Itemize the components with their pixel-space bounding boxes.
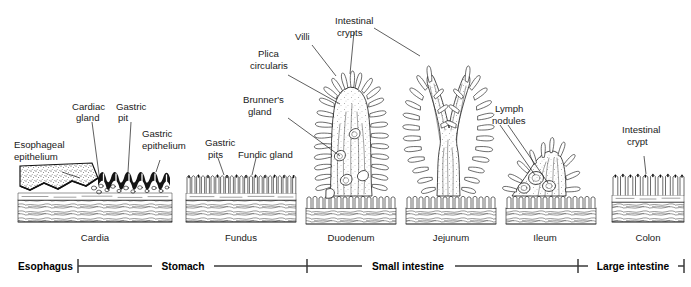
plica-ileum xyxy=(503,138,581,196)
plica-circularis-jejunum xyxy=(403,66,494,196)
callout-lymph-nodules-line2: nodules xyxy=(492,115,526,126)
callout-cardiac-gland-line2: gland xyxy=(76,112,99,123)
region-label-colon: Colon xyxy=(635,232,660,243)
callout-plica-circularis-line2: circularis xyxy=(250,60,288,71)
callout-brunners-gland-line2: gland xyxy=(248,106,271,117)
callout-fundic-gland: Fundic gland xyxy=(238,149,293,160)
callout-intestinal-crypts-line1: Intestinal xyxy=(335,15,373,26)
colon-crypts-tissue xyxy=(612,174,684,195)
cardiac-gland-tissue xyxy=(91,184,169,194)
callout-gastric-epithelium-line2: epithelium xyxy=(142,140,186,151)
region-labels: Cardia Fundus Duodenum Jejunum Ileum Col… xyxy=(81,232,661,243)
specimen-colon xyxy=(612,174,684,222)
scale-label-esophagus: Esophagus xyxy=(18,261,73,272)
plica-circularis-duodenum xyxy=(314,71,388,198)
callout-intestinal-crypts-line2: crypts xyxy=(337,27,363,38)
duodenum-crypt-row xyxy=(306,196,396,208)
specimen-duodenum xyxy=(306,71,396,224)
callout-intestinal-crypt-line1: Intestinal xyxy=(622,124,660,135)
scale-bar: Esophagus Stomach Small intestine Large … xyxy=(18,259,684,273)
ileum-muscularis xyxy=(506,208,596,224)
callout-esophageal-epithelium-line2: epithelium xyxy=(14,151,58,162)
callout-gastric-epithelium-line1: Gastric xyxy=(142,128,173,139)
callout-plica-circularis-line1: Plica xyxy=(258,48,279,59)
callout-esophageal-epithelium-line1: Esophageal xyxy=(14,139,65,150)
fundus-muscularis xyxy=(186,200,296,222)
callout-gastric-pits-line2: pits xyxy=(208,149,223,160)
specimen-ileum xyxy=(503,138,596,224)
gastric-pits-cardia xyxy=(98,172,170,190)
jejunum-muscularis xyxy=(406,208,496,224)
scale-label-stomach: Stomach xyxy=(161,261,204,272)
specimen-jejunum xyxy=(403,66,496,224)
scale-label-large-intestine: Large intestine xyxy=(597,261,670,272)
fundic-glands-tissue xyxy=(186,175,296,193)
region-label-fundus: Fundus xyxy=(225,232,257,243)
specimen-fundus xyxy=(186,175,296,222)
esophageal-epithelium-tissue xyxy=(20,163,98,190)
ileum-crypt-row xyxy=(506,196,596,208)
jejunum-crypt-row xyxy=(406,196,496,208)
region-label-jejunum: Jejunum xyxy=(433,232,469,243)
specimen-cardia xyxy=(18,163,172,222)
callout-lymph-nodules-line1: Lymph xyxy=(495,103,523,114)
callout-gastric-pits-line1: Gastric xyxy=(205,137,236,148)
callout-intestinal-crypt-line2: crypt xyxy=(627,136,648,147)
callout-villi: Villi xyxy=(295,31,310,42)
callout-gastric-pit-line1: Gastric xyxy=(116,101,147,112)
callout-cardiac-gland-line1: Cardiac xyxy=(72,101,105,112)
callout-brunners-gland-line1: Brunner's xyxy=(243,94,284,105)
scale-label-small-intestine: Small intestine xyxy=(372,261,444,272)
callout-gastric-pit-line2: pit xyxy=(118,112,128,123)
region-label-duodenum: Duodenum xyxy=(328,232,375,243)
duodenum-muscularis xyxy=(306,208,396,224)
region-label-ileum: Ileum xyxy=(533,232,556,243)
histology-figure: Esophageal epithelium Cardiac gland Gast… xyxy=(0,0,691,287)
region-label-cardia: Cardia xyxy=(81,232,110,243)
cardia-muscularis xyxy=(18,200,172,222)
colon-muscularis xyxy=(612,202,684,222)
